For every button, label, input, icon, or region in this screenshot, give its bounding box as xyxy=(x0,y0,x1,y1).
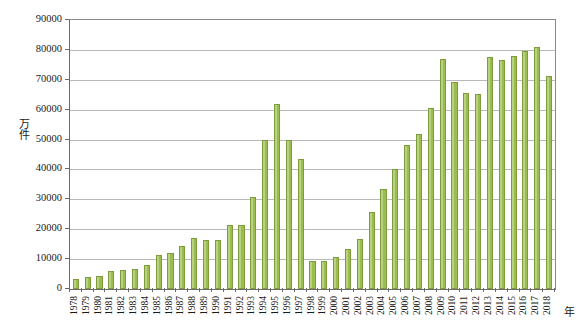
x-axis-tick-mark xyxy=(365,288,366,292)
bar xyxy=(321,261,327,289)
x-axis-tick-mark xyxy=(519,288,520,292)
bar xyxy=(511,56,517,289)
bar xyxy=(463,93,469,289)
bar xyxy=(451,82,457,289)
bar xyxy=(333,257,339,289)
x-axis-tick-label: 1997 xyxy=(295,296,305,315)
bar xyxy=(369,212,375,289)
bar xyxy=(440,59,446,289)
x-axis-tick-label: 2005 xyxy=(389,296,399,315)
x-axis-tick-label: 2006 xyxy=(401,296,411,315)
x-axis-tick-mark xyxy=(353,288,354,292)
bar xyxy=(522,51,528,289)
x-axis-tick-label: 1982 xyxy=(117,296,127,315)
x-axis-tick-label: 1994 xyxy=(259,296,269,315)
y-axis-tick-label: 90000 xyxy=(36,14,62,25)
x-axis-tick-label: 1979 xyxy=(82,296,92,315)
x-axis-tick-mark xyxy=(329,288,330,292)
x-axis-tick-label: 2000 xyxy=(330,296,340,315)
bar xyxy=(120,270,126,289)
y-axis-tick-label: 30000 xyxy=(36,193,62,204)
x-axis-tick-label: 1988 xyxy=(188,296,198,315)
gridline xyxy=(70,80,555,81)
x-axis-tick-mark xyxy=(377,288,378,292)
x-axis-tick-label: 2010 xyxy=(448,296,458,315)
x-axis-tick-label: 1993 xyxy=(247,296,257,315)
bar xyxy=(73,279,79,289)
x-axis-tick-mark xyxy=(448,288,449,292)
x-axis-tick-mark xyxy=(459,288,460,292)
y-axis-tick-mark xyxy=(65,49,69,50)
x-axis-tick-mark xyxy=(104,288,105,292)
y-axis-tick-label: 0 xyxy=(57,283,62,294)
x-axis-tick-label: 2007 xyxy=(413,296,423,315)
x-axis-tick-label: 2008 xyxy=(425,296,435,315)
x-axis-tick-mark xyxy=(93,288,94,292)
x-axis-tick-mark xyxy=(152,288,153,292)
x-axis-tick-mark xyxy=(530,288,531,292)
bar xyxy=(227,225,233,289)
x-axis-tick-mark xyxy=(164,288,165,292)
bar xyxy=(534,47,540,289)
bar xyxy=(203,240,209,289)
bar xyxy=(286,140,292,289)
x-axis-tick-mark xyxy=(81,288,82,292)
x-axis-tick-mark xyxy=(270,288,271,292)
bar xyxy=(167,253,173,289)
gridline xyxy=(70,229,555,230)
x-axis-tick-mark xyxy=(341,288,342,292)
x-axis-tick-label: 2013 xyxy=(484,296,494,315)
x-axis-tick-mark xyxy=(116,288,117,292)
x-axis-tick-mark xyxy=(388,288,389,292)
plot-area xyxy=(69,19,556,290)
x-axis-tick-mark xyxy=(258,288,259,292)
x-axis-tick-label: 1991 xyxy=(224,296,234,315)
y-axis-tick-mark xyxy=(65,258,69,259)
bar xyxy=(309,261,315,289)
bar xyxy=(392,169,398,289)
bar-chart-figure: 万件 年 01000020000300004000050000600007000… xyxy=(0,0,585,329)
bar xyxy=(215,240,221,289)
x-axis-tick-label: 1978 xyxy=(70,296,80,315)
y-axis-tick-label: 50000 xyxy=(36,134,62,145)
y-axis-title: 万件 xyxy=(14,118,30,140)
x-axis-tick-label: 2014 xyxy=(496,296,506,315)
x-axis-tick-label: 1980 xyxy=(94,296,104,315)
bar xyxy=(499,60,505,289)
x-axis-tick-label: 1984 xyxy=(141,296,151,315)
x-axis-tick-mark xyxy=(542,288,543,292)
x-axis-tick-label: 2016 xyxy=(519,296,529,315)
x-axis-tick-label: 1987 xyxy=(176,296,186,315)
x-axis-tick-mark xyxy=(400,288,401,292)
y-axis-tick-mark xyxy=(65,228,69,229)
bar xyxy=(144,265,150,289)
bar xyxy=(132,269,138,289)
x-axis-tick-mark xyxy=(483,288,484,292)
gridline xyxy=(70,50,555,51)
x-axis-tick-label: 2003 xyxy=(366,296,376,315)
y-axis-tick-mark xyxy=(65,198,69,199)
x-axis-tick-label: 1985 xyxy=(153,296,163,315)
bar xyxy=(404,145,410,289)
x-axis-tick-label: 1981 xyxy=(105,296,115,315)
x-axis-tick-label: 1996 xyxy=(283,296,293,315)
x-axis-tick-label: 2009 xyxy=(437,296,447,315)
x-axis-tick-label: 2004 xyxy=(377,296,387,315)
x-axis-tick-label: 1992 xyxy=(236,296,246,315)
x-axis-tick-mark xyxy=(554,288,555,292)
x-axis-tick-label: 1998 xyxy=(307,296,317,315)
x-axis-tick-mark xyxy=(294,288,295,292)
y-axis-tick-label: 80000 xyxy=(36,44,62,55)
y-axis-tick-label: 20000 xyxy=(36,223,62,234)
x-axis-tick-label: 1986 xyxy=(165,296,175,315)
y-axis-tick-mark xyxy=(65,79,69,80)
x-axis-tick-mark xyxy=(424,288,425,292)
bar xyxy=(156,255,162,289)
x-axis-title: 年 xyxy=(564,307,575,318)
x-axis-tick-label: 2017 xyxy=(531,296,541,315)
x-axis-tick-mark xyxy=(199,288,200,292)
bar xyxy=(487,57,493,289)
x-axis-tick-mark xyxy=(412,288,413,292)
x-axis-tick-label: 2012 xyxy=(472,296,482,315)
bar xyxy=(475,94,481,289)
